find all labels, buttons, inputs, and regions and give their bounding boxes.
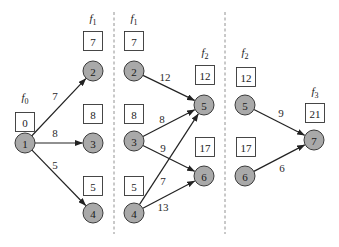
graph-node: 2 (124, 61, 144, 81)
edge-weight-label: 13 (158, 201, 170, 213)
value-box: 12 (237, 68, 256, 87)
node-id-label: 6 (242, 171, 248, 183)
value-box-text: 21 (310, 108, 321, 120)
node-id-label: 6 (201, 171, 207, 183)
value-box-text: 5 (90, 181, 96, 193)
edge: 8 (35, 127, 83, 143)
graph-node: 6 (235, 166, 255, 186)
edge: 9 (143, 142, 195, 171)
value-box: 5 (84, 177, 103, 196)
value-box: 5 (125, 177, 144, 196)
value-box: 17 (237, 138, 256, 157)
edge-weight-label: 7 (160, 175, 166, 187)
edge-weight-label: 8 (159, 113, 165, 125)
edge: 12 (143, 71, 195, 100)
stage-2: f1728354 (124, 12, 144, 223)
edge-weight-label: 5 (52, 159, 58, 171)
edge-arrow (32, 150, 86, 205)
graph-node: 2 (83, 61, 103, 81)
value-box: 12 (196, 66, 215, 85)
stage-value-label: f3 (311, 85, 318, 100)
node-id-label: 1 (22, 138, 28, 150)
value-box-text: 0 (22, 117, 28, 129)
value-box: 7 (84, 32, 103, 51)
graph-node: 3 (124, 131, 144, 151)
value-box-text: 17 (200, 142, 212, 154)
stage-value-label: f2 (201, 46, 208, 61)
value-box-text: 7 (131, 36, 137, 48)
value-box-text: 12 (241, 72, 252, 84)
value-box: 8 (125, 105, 144, 124)
graph-node: 7 (304, 130, 324, 150)
graph-node: 3 (83, 133, 103, 153)
edge-weight-label: 9 (278, 107, 284, 119)
value-box: 0 (16, 113, 35, 132)
stage-value-label: f2 (241, 46, 248, 61)
graph-node: 1 (15, 133, 35, 153)
stage-0: f001 (15, 91, 35, 153)
edge-weight-label: 8 (52, 127, 58, 139)
stage-5: f3217 (304, 85, 325, 150)
edge: 13 (143, 181, 195, 213)
edge-weight-label: 9 (160, 142, 166, 154)
edge: 7 (32, 79, 86, 136)
value-box-text: 7 (90, 36, 96, 48)
value-box-text: 12 (200, 70, 211, 82)
node-id-label: 2 (131, 66, 137, 78)
value-box: 8 (84, 105, 103, 124)
value-box: 21 (306, 104, 325, 123)
diagram-canvas: 785128971396 f001f1728354f1728354f212517… (0, 0, 339, 247)
edge: 7 (139, 114, 198, 205)
value-box-text: 8 (90, 109, 96, 121)
node-id-label: 2 (90, 66, 96, 78)
edge-weight-label: 7 (52, 90, 58, 102)
edge-weight-label: 12 (160, 71, 171, 83)
graph-node: 5 (235, 95, 255, 115)
stage-value-label: f0 (21, 91, 28, 106)
value-box: 7 (125, 32, 144, 51)
graph-node: 5 (194, 95, 214, 115)
value-box-text: 8 (131, 109, 137, 121)
graph-node: 4 (124, 203, 144, 223)
value-box: 17 (196, 138, 215, 157)
edge: 9 (254, 107, 305, 135)
edge: 5 (32, 150, 86, 205)
edge-arrow (139, 114, 198, 205)
edges: 785128971396 (32, 71, 305, 213)
graph-node: 6 (194, 166, 214, 186)
graph-node: 4 (83, 203, 103, 223)
value-box-text: 17 (241, 142, 253, 154)
node-id-label: 3 (90, 138, 96, 150)
node-id-label: 4 (90, 208, 96, 220)
node-id-label: 5 (242, 100, 248, 112)
stagewise-graph-diagram: 785128971396 f001f1728354f1728354f212517… (0, 0, 339, 247)
stage-4: f2125176 (235, 46, 256, 186)
node-id-label: 3 (131, 136, 137, 148)
node-id-label: 7 (311, 135, 317, 147)
stage-value-label: f1 (130, 12, 137, 27)
edge-arrow (143, 181, 195, 208)
edge: 6 (254, 145, 305, 174)
edge-arrow (32, 79, 86, 136)
node-id-label: 4 (131, 208, 137, 220)
edge-weight-label: 6 (279, 162, 285, 174)
node-id-label: 5 (201, 100, 207, 112)
stage-value-label: f1 (89, 12, 96, 27)
stage-1: f1728354 (83, 12, 103, 223)
value-box-text: 5 (131, 181, 137, 193)
